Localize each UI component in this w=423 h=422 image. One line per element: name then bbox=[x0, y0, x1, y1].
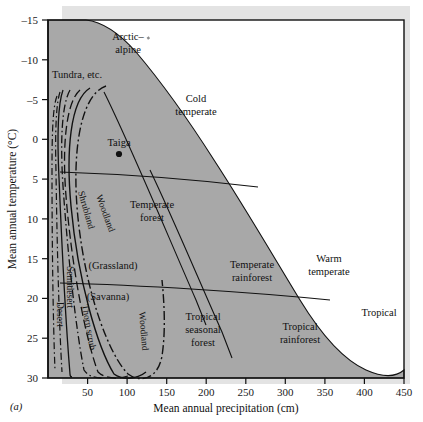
x-tick-label: 350 bbox=[317, 386, 334, 398]
label-arctic-alpine-2: alpine bbox=[115, 44, 141, 55]
x-axis-tick-labels: 50 100 150 200 250 300 350 400 450 bbox=[82, 386, 413, 398]
whittaker-biome-figure: –15 –10 –5 0 5 10 15 20 25 30 50 100 1 bbox=[0, 0, 423, 422]
x-tick-label: 400 bbox=[356, 386, 373, 398]
x-tick-label: 50 bbox=[82, 386, 94, 398]
panel-label: (a) bbox=[10, 401, 23, 413]
x-axis-title: Mean annual precipitation (cm) bbox=[153, 402, 298, 415]
label-cold-temperate-2: temperate bbox=[175, 106, 217, 117]
x-tick-label: 450 bbox=[396, 386, 413, 398]
y-tick-label: 20 bbox=[27, 292, 39, 304]
y-tick-label: 10 bbox=[27, 213, 39, 225]
x-axis-ticks bbox=[88, 378, 404, 384]
label-semidesert: Semidesert bbox=[65, 266, 75, 309]
label-tropical-seasonal-forest-2: seasonal bbox=[185, 324, 221, 335]
label-temperate-forest-2: forest bbox=[140, 212, 164, 223]
label-desert: Desert bbox=[55, 302, 65, 327]
label-temperate-rainforest: Temperate bbox=[230, 259, 274, 270]
label-tropical-seasonal-forest: Tropical bbox=[185, 311, 220, 322]
y-axis-title: Mean annual temperature (°C) bbox=[6, 129, 19, 269]
label-temperate-rainforest-2: rainforest bbox=[232, 272, 272, 283]
label-arctic-alpine: Arctic– bbox=[112, 31, 144, 42]
y-tick-label: 25 bbox=[27, 332, 39, 344]
label-tropical-rainforest: Tropical bbox=[282, 321, 317, 332]
label-warm-temperate-2: temperate bbox=[308, 266, 350, 277]
x-tick-label: 300 bbox=[277, 386, 294, 398]
y-tick-label: –10 bbox=[21, 54, 39, 66]
y-axis-tick-labels: –15 –10 –5 0 5 10 15 20 25 30 bbox=[21, 14, 39, 384]
biome-chart-svg: –15 –10 –5 0 5 10 15 20 25 30 50 100 1 bbox=[0, 0, 423, 422]
label-taiga: Taiga bbox=[107, 137, 131, 148]
label-grassland: (Grassland) bbox=[89, 260, 138, 272]
y-tick-label: 15 bbox=[27, 253, 39, 265]
y-tick-label: 30 bbox=[27, 372, 39, 384]
label-tropical-seasonal-forest-3: forest bbox=[191, 337, 215, 348]
x-tick-label: 100 bbox=[119, 386, 136, 398]
label-cold-temperate: Cold bbox=[186, 93, 207, 104]
y-tick-label: –15 bbox=[21, 14, 39, 26]
label-tundra: Tundra, etc. bbox=[52, 69, 102, 80]
label-savanna: (Savanna) bbox=[87, 291, 130, 303]
label-tropical: Tropical bbox=[361, 307, 396, 318]
label-temperate-forest: Temperate bbox=[130, 199, 174, 210]
taiga-data-point bbox=[116, 151, 122, 157]
label-warm-temperate: Warm bbox=[316, 253, 341, 264]
x-tick-label: 250 bbox=[238, 386, 255, 398]
label-tropical-rainforest-2: rainforest bbox=[280, 334, 320, 345]
y-tick-label: 0 bbox=[33, 133, 39, 145]
y-tick-label: –5 bbox=[26, 94, 39, 106]
y-tick-label: 5 bbox=[33, 173, 39, 185]
x-tick-label: 150 bbox=[158, 386, 175, 398]
y-axis-ticks bbox=[42, 20, 48, 378]
x-tick-label: 200 bbox=[198, 386, 215, 398]
